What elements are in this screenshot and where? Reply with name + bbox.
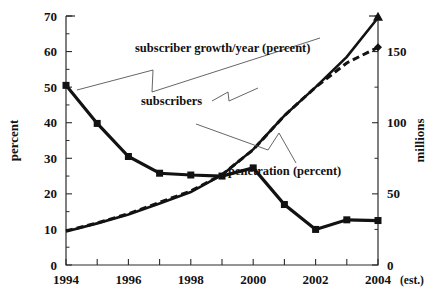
x-axis-tick-label: 1994 <box>53 272 80 287</box>
data-point-marker <box>94 120 101 127</box>
data-point-marker <box>125 153 132 160</box>
data-point-marker <box>375 217 382 224</box>
annotation-subscribers: subscribers <box>141 94 202 108</box>
y-axis-left-tick-label: 10 <box>44 222 57 237</box>
y-axis-right-tick-label: 150 <box>387 44 407 59</box>
chart-figure: percent010203040506070millions0501001501… <box>0 0 434 304</box>
y-axis-left-tick-label: 0 <box>51 258 58 273</box>
y-axis-left-title: percent <box>6 119 21 161</box>
x-axis <box>66 259 378 265</box>
y-axis-right-title: millions <box>412 118 427 162</box>
y-axis-left: percent <box>6 16 72 265</box>
annotation-penetration: penetration (percent) <box>228 164 341 178</box>
y-axis-right-tick-label: 100 <box>387 115 407 130</box>
annotation-leader-line <box>212 88 258 101</box>
x-axis-tick-label: 2002 <box>303 272 329 287</box>
data-point-marker <box>63 82 70 89</box>
y-axis-right-tick-label: 0 <box>387 258 394 273</box>
series-subscriber-growth-year-percent <box>63 82 382 233</box>
annotation-subscriber-growth: subscriber growth/year (percent) <box>135 41 310 55</box>
annotation-leader-line <box>196 124 296 163</box>
x-axis-tick-label: 1998 <box>178 272 205 287</box>
x-axis-est-note: (est.) <box>400 274 424 287</box>
y-axis-left-tick-label: 50 <box>44 80 57 95</box>
data-point-marker <box>156 170 163 177</box>
x-axis-tick-label: 1996 <box>115 272 142 287</box>
data-point-marker <box>312 226 319 233</box>
y-axis-left-tick-label: 40 <box>44 115 57 130</box>
x-axis-tick-label: 2000 <box>240 272 266 287</box>
y-axis-left-tick-label: 60 <box>44 44 57 59</box>
y-axis-right-tick-label: 50 <box>387 186 400 201</box>
y-axis-left-tick-label: 30 <box>44 151 57 166</box>
data-point-marker <box>187 172 194 179</box>
series-line <box>66 85 378 229</box>
y-axis-left-tick-label: 20 <box>44 186 57 201</box>
chart-canvas: percent010203040506070millions0501001501… <box>0 0 434 304</box>
y-axis-left-tick-label: 70 <box>44 9 57 24</box>
data-point-marker <box>343 216 350 223</box>
x-axis-tick-label: 2004 <box>365 272 392 287</box>
data-point-marker <box>281 201 288 208</box>
series-subscribers <box>66 43 382 231</box>
